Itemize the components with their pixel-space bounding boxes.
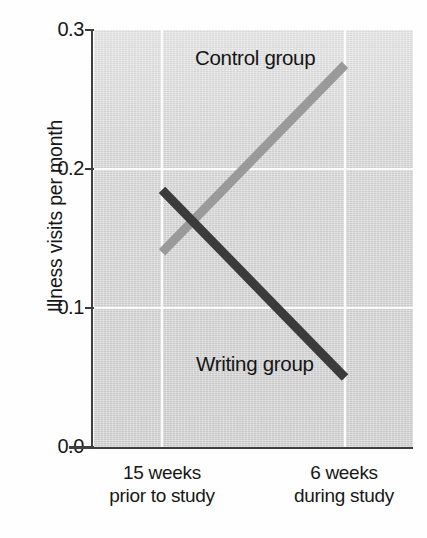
series-annotation-control-group: Control group (195, 46, 315, 70)
y-axis-title: Illness visits per month (44, 66, 72, 366)
x-tick-label-1-line-2: prior to study (82, 484, 242, 507)
plot-area: Control group Writing group (94, 30, 413, 447)
series-lines (94, 30, 413, 447)
x-axis-line (69, 447, 413, 449)
x-tick-label-2-line-1: 6 weeks (264, 461, 424, 484)
x-tick-label-1-line-1: 15 weeks (82, 461, 242, 484)
series-line-writing-group (162, 190, 345, 378)
y-tick-label-0.3: 0.3 (28, 18, 84, 41)
series-annotation-writing-group: Writing group (196, 352, 314, 376)
x-tick-label-2-line-2: during study (264, 484, 424, 507)
y-tick-label-0.2: 0.2 (28, 157, 84, 180)
x-tick-label-category-2: 6 weeks during study (264, 461, 424, 507)
chart-figure: Illness visits per month 0.3 0.2 0.1 0.0… (0, 0, 427, 538)
y-tick-label-0.1: 0.1 (28, 296, 84, 319)
x-tick-label-category-1: 15 weeks prior to study (82, 461, 242, 507)
